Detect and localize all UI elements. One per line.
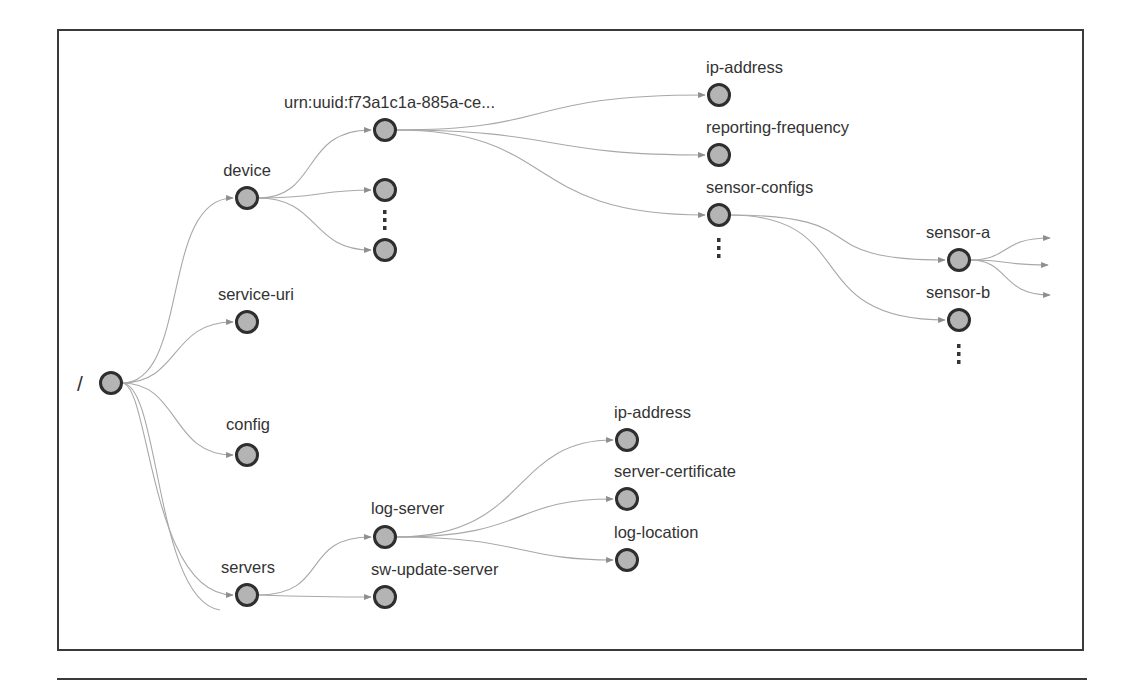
- label-root: /: [77, 372, 83, 395]
- edge-device-child2: [258, 190, 371, 198]
- edge-urn-reporting-frequency: [396, 130, 705, 155]
- label-log-location: log-location: [614, 523, 698, 541]
- node-reporting-frequency[interactable]: [709, 145, 730, 166]
- edge-servers-sw-update-server: [258, 595, 371, 597]
- node-device-child2[interactable]: [375, 180, 396, 201]
- node-server-certificate[interactable]: [617, 489, 638, 510]
- node-root[interactable]: [101, 373, 122, 394]
- node-device[interactable]: [237, 188, 258, 209]
- label-sensor-configs: sensor-configs: [706, 178, 813, 196]
- node-sensor-b[interactable]: [949, 310, 970, 331]
- edge-sensor-configs-sensor-a: [730, 215, 945, 260]
- label-ip-address-1: ip-address: [706, 58, 783, 76]
- ellipsis-sensor-children: [957, 344, 961, 364]
- label-sensor-a: sensor-a: [926, 223, 991, 241]
- node-service-uri[interactable]: [237, 312, 258, 333]
- edge-log-server-log-location: [396, 537, 613, 560]
- node-ip-address-1[interactable]: [709, 85, 730, 106]
- label-server-certificate: server-certificate: [614, 462, 736, 480]
- edge-root-service-uri: [122, 322, 233, 383]
- edge-device-urn: [258, 130, 371, 198]
- edge-device-child3: [258, 198, 371, 250]
- node-sensor-a[interactable]: [949, 250, 970, 271]
- ellipsis-sensor-configs-children: [717, 238, 721, 258]
- label-servers: servers: [221, 558, 275, 576]
- edge-root-servers-outer: [122, 383, 220, 610]
- edge-root-device: [122, 198, 233, 383]
- node-config[interactable]: [237, 445, 258, 466]
- ellipsis-markers: [383, 210, 961, 364]
- edge-sensor-a-out1: [970, 238, 1050, 260]
- labels: / device service-uri config servers urn:…: [77, 58, 991, 578]
- label-service-uri: service-uri: [218, 285, 294, 303]
- label-log-server: log-server: [371, 499, 445, 517]
- node-urn[interactable]: [375, 120, 396, 141]
- label-sensor-b: sensor-b: [926, 283, 990, 301]
- node-log-location[interactable]: [617, 550, 638, 571]
- label-config: config: [226, 415, 270, 433]
- label-reporting-frequency: reporting-frequency: [706, 118, 850, 136]
- edge-root-config: [122, 383, 233, 455]
- node-sensor-configs[interactable]: [709, 205, 730, 226]
- node-device-child3[interactable]: [375, 240, 396, 261]
- label-ip-address-2: ip-address: [614, 403, 691, 421]
- edge-root-servers: [122, 383, 233, 595]
- node-log-server[interactable]: [375, 527, 396, 548]
- node-servers[interactable]: [237, 585, 258, 606]
- tree-diagram: / device service-uri config servers urn:…: [0, 0, 1138, 683]
- label-device: device: [223, 161, 271, 179]
- label-sw-update-server: sw-update-server: [371, 560, 499, 578]
- edge-sensor-configs-sensor-b: [730, 215, 945, 320]
- ellipsis-device-children: [383, 210, 387, 230]
- label-urn: urn:uuid:f73a1c1a-885a-ce...: [284, 93, 495, 111]
- node-sw-update-server[interactable]: [375, 587, 396, 608]
- node-ip-address-2[interactable]: [617, 430, 638, 451]
